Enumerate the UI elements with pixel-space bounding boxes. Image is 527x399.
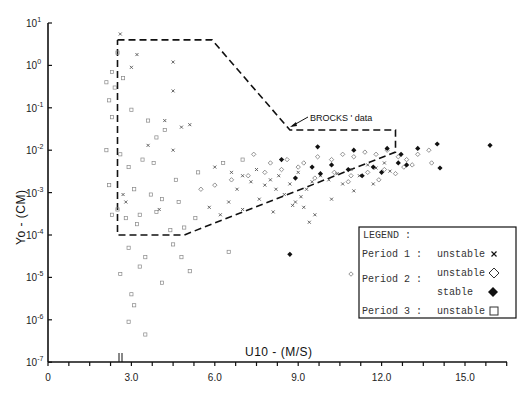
- open-square-icon: [222, 161, 225, 164]
- filled-diamond-icon: [360, 173, 365, 178]
- y-tick-label: 100: [26, 58, 41, 71]
- filled-diamond-icon: [437, 165, 442, 170]
- open-diamond-icon: [302, 161, 306, 165]
- x-tick-label: 3.0: [124, 372, 138, 383]
- filled-diamond-icon: [315, 144, 320, 149]
- x-tick-label: 12.0: [372, 372, 392, 383]
- open-square-icon: [180, 256, 183, 259]
- open-diamond-icon: [268, 161, 272, 165]
- open-diamond-icon: [263, 170, 267, 174]
- x-tick-label: 6.0: [208, 372, 222, 383]
- filled-diamond-icon: [310, 164, 315, 169]
- open-diamond-icon: [404, 157, 408, 161]
- brocks-data-region: [118, 40, 396, 235]
- y-tick-label: 10-7: [26, 355, 43, 368]
- open-square-icon: [169, 229, 172, 232]
- open-square-icon: [108, 99, 111, 102]
- axis-marker: [119, 353, 122, 362]
- open-square-icon: [160, 281, 163, 284]
- open-diamond-icon: [340, 152, 344, 156]
- y-axis-title: Yo - (CM): [14, 190, 28, 245]
- y-tick-label: 10-3: [26, 186, 43, 199]
- open-diamond-icon: [377, 178, 381, 182]
- x-tick-label: 9.0: [291, 372, 305, 383]
- filled-diamond-icon: [279, 157, 284, 162]
- scatter-chart: 10110010-110-210-310-410-510-610-7 03.06…: [0, 0, 527, 399]
- open-diamond-icon: [329, 157, 333, 161]
- brocks-label: BROCKS ' data: [310, 113, 372, 123]
- legend-period-1: Period 1 :: [362, 249, 422, 260]
- open-square-icon: [110, 213, 113, 216]
- filled-diamond-icon: [415, 146, 420, 151]
- open-square-icon: [163, 128, 166, 131]
- open-square-icon: [124, 217, 127, 220]
- x-tick-label: 15.0: [455, 372, 475, 383]
- filled-diamond-icon: [404, 162, 409, 167]
- open-square-icon: [144, 333, 147, 336]
- open-diamond-icon: [279, 167, 283, 171]
- open-diamond-icon: [229, 178, 233, 182]
- open-square-icon: [133, 304, 136, 307]
- open-square-icon: [121, 77, 124, 80]
- open-diamond-icon: [429, 161, 433, 165]
- filled-diamond-icon: [346, 167, 351, 172]
- open-square-icon: [130, 108, 133, 111]
- open-square-icon: [108, 184, 111, 187]
- open-diamond-icon: [213, 183, 217, 187]
- open-square-icon: [141, 158, 144, 161]
- filled-diamond-icon: [318, 171, 323, 176]
- open-square-icon: [149, 193, 152, 196]
- y-tick-label: 10-4: [26, 228, 43, 241]
- open-square-icon: [241, 158, 244, 161]
- filled-diamond-icon: [396, 160, 401, 165]
- filled-diamond-icon: [487, 143, 492, 148]
- open-square-icon: [227, 250, 230, 253]
- legend-p3-label: unstable: [437, 306, 485, 317]
- open-square-icon: [194, 217, 197, 220]
- y-tick-label: 10-6: [26, 313, 43, 326]
- legend-p2-unstable-label: unstable: [437, 268, 485, 279]
- filled-diamond-icon: [287, 252, 292, 257]
- open-diamond-icon: [199, 187, 203, 191]
- filled-diamond-icon: [329, 162, 334, 167]
- open-diamond-icon: [315, 155, 319, 159]
- open-diamond-icon: [296, 165, 300, 169]
- open-square-icon: [127, 246, 130, 249]
- y-tick-label: 10-1: [26, 101, 43, 114]
- x-tick-label: 0: [45, 372, 51, 383]
- open-square-icon: [105, 81, 108, 84]
- open-diamond-icon: [427, 148, 431, 152]
- open-square-icon: [110, 116, 113, 119]
- legend-period-2: Period 2 :: [362, 274, 422, 285]
- open-square-icon: [105, 149, 108, 152]
- open-square-icon: [160, 198, 163, 201]
- open-square-icon: [135, 223, 138, 226]
- filled-diamond-icon: [293, 175, 298, 180]
- open-square-icon: [197, 171, 200, 174]
- open-square-icon: [119, 153, 122, 156]
- open-square-icon: [138, 265, 141, 268]
- filled-diamond-icon: [398, 152, 403, 157]
- open-diamond-icon: [346, 180, 350, 184]
- open-square-icon: [133, 188, 136, 191]
- open-diamond-icon: [363, 150, 367, 154]
- open-square-icon: [146, 119, 149, 122]
- open-square-icon: [130, 293, 133, 296]
- legend: LEGEND : Period 1 : unstable Period 2 : …: [359, 227, 516, 318]
- open-diamond-icon: [246, 174, 250, 178]
- y-axis: 10110010-110-210-310-410-510-610-7: [26, 16, 52, 368]
- filled-diamond-icon: [351, 148, 356, 153]
- y-tick-label: 10-2: [26, 143, 43, 156]
- legend-p1-label: unstable: [437, 249, 485, 260]
- open-diamond-icon: [313, 176, 317, 180]
- open-square-icon: [110, 70, 113, 73]
- open-square-icon: [188, 270, 191, 273]
- open-square-icon: [127, 320, 130, 323]
- brocks-annotation: BROCKS ' data: [290, 113, 372, 127]
- open-diamond-icon: [252, 152, 256, 156]
- legend-period-3: Period 3 :: [362, 306, 422, 317]
- open-square-icon: [174, 178, 177, 181]
- open-diamond-icon: [352, 155, 356, 159]
- open-diamond-icon: [366, 170, 370, 174]
- open-square-icon: [155, 136, 158, 139]
